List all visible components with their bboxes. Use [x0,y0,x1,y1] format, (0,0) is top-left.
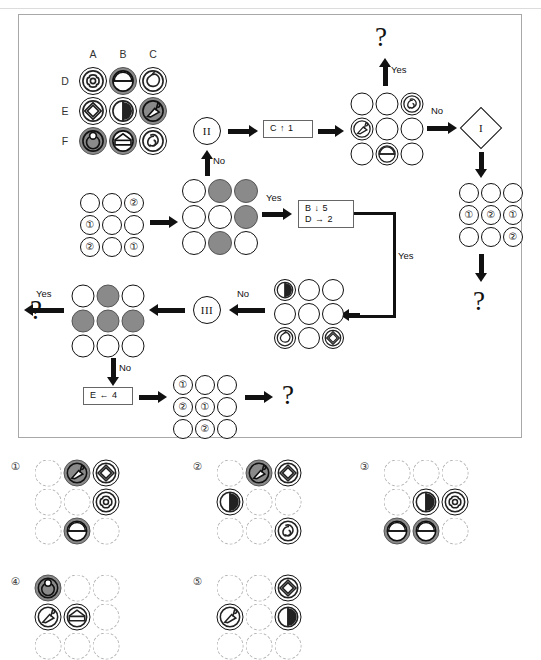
grid-disc-gray [234,179,258,203]
legend-cell-ea [78,96,108,126]
option-cell [215,573,244,602]
grid-disc-open [182,205,206,229]
grid-cell: ② [79,236,101,258]
half-moon-icon [110,98,136,124]
arrow-mid-grid-to-decision-three [229,304,265,316]
mid-symbol-grid [273,278,345,350]
grid-cell [216,396,238,418]
legend-disc [79,67,107,95]
grid-disc [322,327,344,349]
option-cell [244,458,273,487]
grid-disc [217,375,237,395]
option-4[interactable]: ④ [33,573,120,660]
option-disc-open [274,517,301,544]
grid-cell [273,302,297,326]
half-moon-icon [275,280,295,300]
legend-disc [139,97,167,125]
legend-disc [109,127,137,155]
grid-disc [102,193,122,213]
grid-disc [298,279,320,301]
option-cell [33,631,62,660]
option-2-grid [215,458,302,545]
legend-cell-ec [138,96,168,126]
edge-label-no-right: No [431,105,443,116]
option-2[interactable]: ② [215,458,302,545]
grid-cell [194,374,216,396]
grid-number-label: ② [130,198,139,208]
grid-cell [399,141,424,166]
options-row-bottom: ④ ⑤ [0,563,541,619]
option-disc-dash [383,488,410,515]
option-disc-open [92,488,119,515]
grid-disc-open [121,284,144,307]
grid-number-label: ② [201,424,210,434]
grid-cell [207,178,233,204]
grid-disc-gray [96,284,119,307]
grid-cell: ① [79,214,101,236]
rule-box-c-up-1: C ↑ 1 [263,120,313,138]
edge-label-no-down: No [119,362,131,373]
bottom-number-grid: ①②①② [172,374,238,440]
half-dome-icon [64,518,89,543]
option-cell [33,458,62,487]
option-disc-dash [63,632,90,659]
grid-cell [120,283,145,308]
arrow-bottom-grid-to-question [245,391,273,403]
grid-cell [349,91,374,116]
option-disc-dash [274,488,301,515]
grid-cell [480,226,502,248]
option-3-label: ③ [360,460,369,472]
grid-cell [502,182,524,204]
option-cell [411,487,440,516]
grid-disc [274,279,296,301]
grid-disc [102,215,122,235]
spiral-swirl-icon [401,93,422,114]
spiral-swirl-icon [275,518,300,543]
option-3[interactable]: ③ [382,458,469,545]
grid-number-label: ① [130,242,139,252]
left-fill-grid [70,283,145,358]
grid-disc-open [208,205,232,229]
half-moon-icon [413,489,438,514]
edge-label-no-mid: No [237,288,249,299]
option-disc-open [274,459,301,486]
grid-cell [349,141,374,166]
flag-kite-icon [35,604,60,629]
option-disc-open [441,488,468,515]
grid-disc [274,327,296,349]
rule-line-b-down-5: B ↓ 5 [305,203,347,214]
half-dome-icon [376,143,397,164]
grid-disc [195,375,215,395]
apple-outline-icon [140,68,166,94]
double-diamond-icon [275,460,300,485]
option-cell [273,516,302,545]
grid-cell [95,333,120,358]
option-disc-dash [34,459,61,486]
option-1[interactable]: ① [33,458,120,545]
top-symbol-grid [349,91,424,166]
grid-disc [322,279,344,301]
option-disc-dash [216,459,243,486]
grid-disc [375,92,398,115]
grid-disc: ① [459,205,479,225]
option-disc-dash [92,517,119,544]
option-cell [62,602,91,631]
grid-disc: ② [124,193,144,213]
arrow-decision-two-to-rule-c [228,125,258,137]
grid-number-label: ② [509,232,518,242]
grid-disc [102,237,122,257]
right-number-grid: ①②①② [458,182,524,248]
decision-two: II [193,117,221,145]
option-5[interactable]: ⑤ [215,573,302,660]
legend-cell-dc [138,66,168,96]
grid-disc [80,193,100,213]
option-cell [273,631,302,660]
option-cell [244,573,273,602]
grid-cell: ② [480,204,502,226]
grid-cell [181,230,207,256]
legend-row-header-f: F [58,126,72,156]
option-cell [62,573,91,602]
grid-disc [459,227,479,247]
flag-kite-icon [246,460,271,485]
grid-disc: ② [481,205,501,225]
